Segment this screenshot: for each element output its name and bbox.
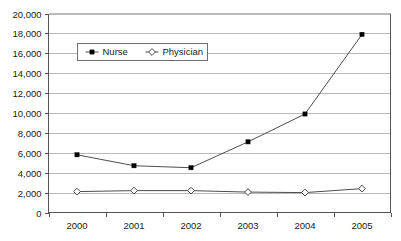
y-axis-tick-label: 10,000 bbox=[12, 108, 41, 119]
data-point-physician-2002 bbox=[188, 187, 195, 194]
data-point-physician-2005 bbox=[359, 185, 366, 192]
x-axis-tick-label: 2005 bbox=[351, 220, 372, 231]
x-axis-tick-label: 2003 bbox=[237, 220, 258, 231]
y-axis-tick-label: 18,000 bbox=[12, 28, 41, 39]
y-axis-tick-label: 12,000 bbox=[12, 88, 41, 99]
data-point-nurse-2003 bbox=[246, 140, 250, 144]
data-point-physician-2001 bbox=[131, 187, 138, 194]
x-axis-tick-labels: 200020012002200320042005 bbox=[66, 220, 372, 231]
x-axis-tick-label: 2001 bbox=[123, 220, 144, 231]
x-axis-tick-label: 2004 bbox=[294, 220, 315, 231]
chart-legend: NursePhysician bbox=[78, 44, 208, 61]
y-axis-tick-label: 4,000 bbox=[18, 168, 42, 179]
data-point-nurse-2004 bbox=[303, 112, 307, 116]
x-axis-tick-marks bbox=[50, 213, 392, 217]
chart-canvas: 02,0004,0006,0008,00010,00012,00014,0001… bbox=[0, 0, 401, 241]
y-axis-tick-labels: 02,0004,0006,0008,00010,00012,00014,0001… bbox=[12, 9, 41, 219]
series-line-physician bbox=[77, 189, 362, 193]
data-point-physician-2003 bbox=[245, 189, 252, 196]
data-point-nurse-2002 bbox=[189, 166, 193, 170]
legend-marker-nurse bbox=[90, 50, 94, 54]
x-axis-tick-label: 2002 bbox=[180, 220, 201, 231]
legend-label-physician: Physician bbox=[163, 46, 204, 57]
y-axis-tick-label: 16,000 bbox=[12, 48, 41, 59]
y-axis-tick-label: 0 bbox=[36, 208, 41, 219]
data-point-nurse-2005 bbox=[360, 32, 364, 36]
legend-label-nurse: Nurse bbox=[103, 46, 128, 57]
data-point-physician-2004 bbox=[302, 189, 309, 196]
y-axis-tick-label: 6,000 bbox=[18, 148, 42, 159]
y-axis-tick-label: 14,000 bbox=[12, 68, 41, 79]
data-point-nurse-2000 bbox=[75, 153, 79, 157]
x-axis-tick-label: 2000 bbox=[66, 220, 87, 231]
y-axis-tick-label: 20,000 bbox=[12, 9, 41, 20]
line-chart: 02,0004,0006,0008,00010,00012,00014,0001… bbox=[0, 0, 401, 241]
data-point-nurse-2001 bbox=[132, 164, 136, 168]
y-axis-tick-label: 2,000 bbox=[18, 188, 42, 199]
y-axis-tick-label: 8,000 bbox=[18, 128, 42, 139]
